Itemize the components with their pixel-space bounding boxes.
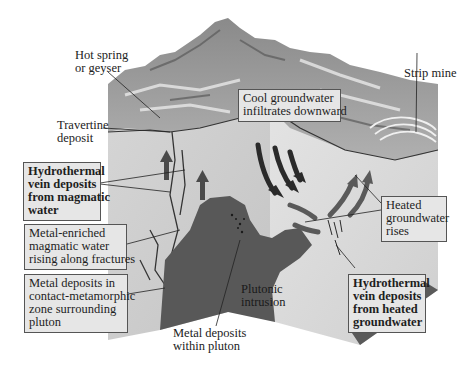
label-line: groundwater [353,316,421,329]
label-metal-deposits-within-pluton: Metal deposits within pluton [173,327,246,353]
label-line: water [28,204,96,217]
label-contact-metamorphic: Metal deposits in contact-metamorphic zo… [24,274,128,333]
label-line: Strip mine [404,67,456,80]
label-line: or geyser [75,62,128,75]
label-line: infiltrates downward [243,105,336,118]
label-travertine: Travertine deposit [57,119,109,145]
label-vein-deposits-heated: Hydrothermal vein deposits from heated g… [348,274,426,333]
label-heated-groundwater: Heated groundwater rises [381,196,447,242]
label-plutonic-intrusion: Plutonic intrusion [241,283,285,309]
label-line: pluton [29,316,123,329]
label-metal-enriched-water: Metal-enriched magmatic water rising alo… [24,224,127,270]
label-strip-mine: Strip mine [404,67,456,80]
label-line: deposit [57,132,109,145]
label-line: within pluton [173,340,246,353]
label-cool-groundwater: Cool groundwater infiltrates downward [238,89,341,122]
label-hot-spring: Hot spring or geyser [75,49,128,75]
label-line: intrusion [241,296,285,309]
label-line: rising along fractures [29,253,122,266]
label-line: rises [386,225,442,238]
label-vein-deposits-magmatic: Hydrothermal vein deposits from magmatic… [23,162,101,221]
